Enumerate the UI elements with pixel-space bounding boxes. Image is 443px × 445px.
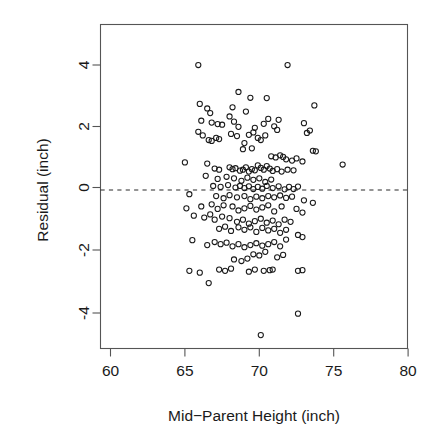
y-tick-label-minus4: -4: [75, 306, 92, 320]
x-tick-label-80: 80: [399, 362, 417, 379]
figure-background: [0, 0, 443, 445]
y-tick-label-2: 2: [75, 122, 92, 131]
y-tick-label-0: 0: [75, 183, 92, 192]
x-tick-label-60: 60: [102, 362, 120, 379]
residual-plot-figure: 60 65 70 75 80 -4 -2 0 2 4 Mid−Parent He…: [0, 0, 443, 445]
x-tick-label-70: 70: [251, 362, 269, 379]
x-tick-label-65: 65: [176, 362, 193, 379]
x-tick-label-75: 75: [325, 362, 342, 379]
scatter-plot-svg: 60 65 70 75 80 -4 -2 0 2 4 Mid−Parent He…: [0, 0, 443, 445]
x-axis-title: Mid−Parent Height (inch): [168, 407, 340, 424]
y-tick-label-4: 4: [75, 60, 92, 69]
y-tick-label-minus2: -2: [75, 243, 92, 257]
y-axis-title: Residual (inch): [34, 138, 51, 241]
